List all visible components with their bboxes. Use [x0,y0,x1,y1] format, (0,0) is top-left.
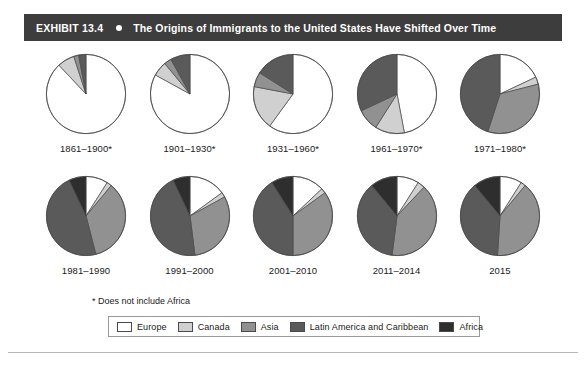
pie-chart-cell: 1981–1990 [38,172,134,276]
legend-label: Asia [261,322,279,332]
pie-period-label: 2011–2014 [373,265,421,276]
pie-chart-cell: 1971–1980* [452,50,548,154]
pie-chart-cell: 1861–1900* [38,50,134,154]
legend: EuropeCanadaAsiaLatin America and Caribb… [108,316,480,337]
pie-chart-grid: 1861–1900*1901–1930*1931–1960*1961–1970*… [24,50,562,276]
pie-slice-europe [397,54,437,132]
pie-period-label: 1991–2000 [165,265,213,276]
pie-chart [146,172,234,260]
pie-chart [42,50,130,138]
legend-item: Latin America and Caribbean [290,322,429,332]
legend-item: Europe [117,322,167,332]
legend-swatch [117,322,132,332]
legend-swatch [241,322,256,332]
pie-chart [456,50,544,138]
pie-chart [146,50,234,138]
pie-chart [456,172,544,260]
pie-period-label: 1971–1980* [474,143,526,154]
exhibit-number: EXHIBIT 13.4 [36,22,103,34]
pie-chart-cell: 1991–2000 [142,172,238,276]
legend-label: Canada [198,322,230,332]
pie-chart [249,50,337,138]
pie-period-label: 1931–1960* [267,143,319,154]
exhibit-title-bar: EXHIBIT 13.4 The Origins of Immigrants t… [24,14,562,41]
pie-period-label: 2001–2010 [269,265,317,276]
bullet-dot-icon [116,25,122,31]
pie-chart [42,172,130,260]
legend-swatch [178,322,193,332]
pie-chart-cell: 1901–1930* [142,50,238,154]
pie-chart [353,50,441,138]
pie-period-label: 1981–1990 [62,265,110,276]
pie-period-label: 1961–1970* [370,143,422,154]
pie-period-label: 1861–1900* [60,143,112,154]
legend-label: Latin America and Caribbean [310,322,429,332]
page-title: The Origins of Immigrants to the United … [133,22,496,34]
pie-row-bottom: 1981–19901991–20002001–20102011–20142015 [24,172,562,276]
bottom-divider [8,352,578,353]
pie-period-label: 1901–1930* [163,143,215,154]
legend-item: Asia [241,322,279,332]
legend-label: Europe [137,322,167,332]
pie-chart-cell: 2011–2014 [349,172,445,276]
exhibit-figure: EXHIBIT 13.4 The Origins of Immigrants t… [0,0,586,366]
legend-swatch [439,322,454,332]
legend-item: Canada [178,322,230,332]
pie-chart-cell: 1961–1970* [349,50,445,154]
pie-chart [353,172,441,260]
legend-swatch [290,322,305,332]
footnote: * Does not include Africa [92,296,190,306]
pie-chart-cell: 2001–2010 [245,172,341,276]
pie-chart-cell: 2015 [452,172,548,276]
pie-chart [249,172,337,260]
pie-period-label: 2015 [489,265,511,276]
legend-label: Africa [459,322,483,332]
pie-chart-cell: 1931–1960* [245,50,341,154]
pie-row-top: 1861–1900*1901–1930*1931–1960*1961–1970*… [24,50,562,154]
legend-item: Africa [439,322,483,332]
